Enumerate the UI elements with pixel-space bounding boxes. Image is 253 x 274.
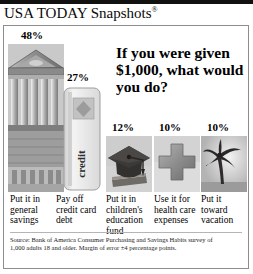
credit-card-icon: credit [60,86,104,192]
value-label-0: 48% [21,29,43,41]
credit-card-word: credit [75,150,87,178]
category-label-1: Pay off credit card debt [56,194,104,226]
value-label-1: 27% [67,71,89,83]
medical-cross-icon [154,136,200,192]
category-label-3: Use it for health care expenses [154,194,200,226]
graduation-cap-icon [106,136,152,192]
category-label-2: Put it in children's education fund [106,194,152,236]
source-note: Source: Bank of America Consumer Purchas… [10,236,225,252]
category-label-0: Put it in general savings [10,194,54,226]
value-label-2: 12% [112,121,134,133]
chart-panel: If you were given $1,000, what would you… [3,25,249,269]
page-title: USA TODAY Snapshots® [4,4,249,22]
registered-trademark-icon: ® [152,5,158,14]
masthead-title-text: USA TODAY Snapshots [4,5,152,21]
value-label-4: 10% [207,121,229,133]
snapshot-infographic: USA TODAY Snapshots® If you were given $… [0,0,253,274]
category-label-4: Put it toward vacation [201,194,247,226]
value-label-3: 10% [159,121,181,133]
chart-headline: If you were given $1,000, what would you… [116,44,244,95]
source-divider [10,232,242,233]
palm-tree-icon [201,136,247,192]
bank-building-icon [8,44,64,192]
